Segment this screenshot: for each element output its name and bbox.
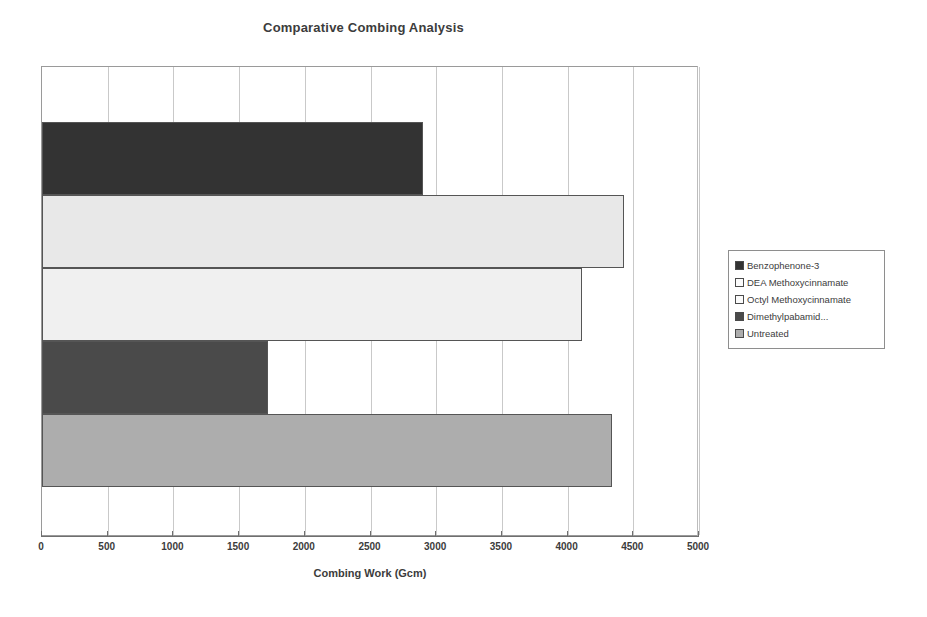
x-axis-tick-labels: 0500100015002000250030003500400045005000 [41,541,699,557]
legend-swatch-icon [735,278,744,287]
bar [42,414,612,487]
legend-swatch-icon [735,329,744,338]
legend-item-label: DEA Methoxycinnamate [747,278,848,288]
x-axis-tick [304,531,305,537]
x-axis-tick-label: 1000 [161,541,183,552]
bar [42,341,268,414]
legend-item-label: Untreated [747,329,789,339]
x-axis-tick [698,531,699,537]
legend: Benzophenone-3DEA MethoxycinnamateOctyl … [728,250,885,349]
bar [42,268,582,341]
plot-area [41,66,698,536]
x-axis-tick-label: 3500 [490,541,512,552]
x-axis-tick-label: 2500 [358,541,380,552]
x-axis-tick [435,531,436,537]
legend-swatch-icon [735,261,744,270]
x-axis-tick-label: 1500 [227,541,249,552]
chart-title: Comparative Combing Analysis [0,20,727,35]
bar [42,122,423,195]
legend-item-label: Dimethylpabamid... [747,312,828,322]
x-axis-ticks [41,531,699,537]
x-axis-tick [501,531,502,537]
x-axis-title: Combing Work (Gcm) [41,567,699,579]
legend-item[interactable]: Benzophenone-3 [735,257,879,274]
x-axis-tick [370,531,371,537]
x-axis-tick-label: 2000 [293,541,315,552]
gridline [699,67,700,535]
x-axis-tick-label: 4500 [621,541,643,552]
bar-series [42,67,697,535]
x-axis-tick-label: 4000 [555,541,577,552]
x-axis-tick [238,531,239,537]
legend-swatch-icon [735,295,744,304]
bar [42,195,624,268]
x-axis-tick [632,531,633,537]
legend-item-label: Octyl Methoxycinnamate [747,295,851,305]
x-axis-tick-label: 500 [98,541,115,552]
x-axis-tick [567,531,568,537]
chart-container: Comparative Combing Analysis 05001000150… [0,0,927,617]
x-axis-tick [41,531,42,537]
x-axis-tick-label: 0 [38,541,44,552]
legend-item-label: Benzophenone-3 [747,261,819,271]
legend-item[interactable]: Octyl Methoxycinnamate [735,291,879,308]
x-axis-tick [172,531,173,537]
legend-item[interactable]: Dimethylpabamid... [735,308,879,325]
x-axis-tick-label: 5000 [687,541,709,552]
legend-swatch-icon [735,312,744,321]
legend-item[interactable]: Untreated [735,325,879,342]
x-axis-tick-label: 3000 [424,541,446,552]
legend-item[interactable]: DEA Methoxycinnamate [735,274,879,291]
x-axis-tick [107,531,108,537]
